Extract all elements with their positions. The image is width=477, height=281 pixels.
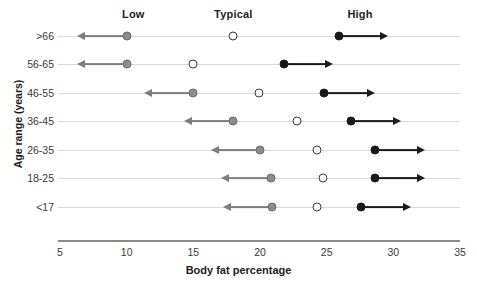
data-point-low [189,89,198,98]
arrow-shaft-high [375,149,418,151]
arrow-shaft-low [229,177,270,179]
arrow-shaft-high [324,92,367,94]
arrow-head-high [403,203,411,211]
arrow-head-low [211,146,219,154]
y-axis-tick-label: >66 [8,30,54,42]
data-point-typical [229,32,238,41]
data-point-low [229,117,238,126]
y-axis-tick-label: 56-65 [8,58,54,70]
data-point-high [346,117,355,126]
y-axis-tick-label: 18-25 [8,172,54,184]
data-point-high [334,32,343,41]
arrow-head-low [77,60,85,68]
data-point-typical [313,146,322,155]
y-axis-tick-label: 26-35 [8,144,54,156]
arrow-shaft-low [152,92,193,94]
arrow-head-high [417,174,425,182]
data-point-typical [293,117,302,126]
data-point-typical [254,89,263,98]
data-point-typical [318,174,327,183]
arrow-shaft-low [192,120,233,122]
arrow-shaft-high [361,206,402,208]
data-point-low [122,60,131,69]
data-point-low [256,146,265,155]
x-axis-tick-label: 10 [121,246,133,258]
column-header-high: High [347,8,372,20]
x-axis-tick-label: 20 [254,246,266,258]
data-point-high [280,60,289,69]
arrow-head-low [77,32,85,40]
x-axis-tick-label: 5 [57,246,63,258]
arrow-shaft-low [85,35,126,37]
x-axis-tick-label: 25 [321,246,333,258]
arrow-shaft-high [351,120,394,122]
arrow-shaft-low [219,149,260,151]
arrow-head-high [393,117,401,125]
arrow-shaft-high [375,177,418,179]
arrow-head-high [417,146,425,154]
arrow-shaft-low [85,63,126,65]
arrow-head-low [144,89,152,97]
column-header-typical: Typical [214,8,253,20]
data-point-high [370,146,379,155]
arrow-head-high [380,32,388,40]
arrow-shaft-high [339,35,380,37]
data-point-low [122,32,131,41]
body-fat-percentage-chart: Low Typical High Age range (years) >6656… [0,0,477,281]
x-axis-line [58,240,460,242]
data-point-high [370,174,379,183]
y-axis-tick-label: 46-55 [8,87,54,99]
arrow-head-low [184,117,192,125]
y-axis-tick-label: 36-45 [8,115,54,127]
y-axis-tick-label: <17 [8,201,54,213]
arrow-head-high [367,89,375,97]
data-point-high [320,89,329,98]
data-point-typical [313,203,322,212]
arrow-head-low [221,174,229,182]
arrow-shaft-low [231,206,272,208]
arrow-head-high [325,60,333,68]
x-axis-tick-label: 30 [387,246,399,258]
x-axis-title: Body fat percentage [0,264,477,276]
arrow-head-low [223,203,231,211]
x-axis-tick-label: 15 [187,246,199,258]
column-header-low: Low [122,8,145,20]
data-point-low [268,203,277,212]
data-point-high [357,203,366,212]
data-point-typical [189,60,198,69]
arrow-shaft-high [284,63,325,65]
data-point-low [266,174,275,183]
x-axis-tick-label: 35 [454,246,466,258]
